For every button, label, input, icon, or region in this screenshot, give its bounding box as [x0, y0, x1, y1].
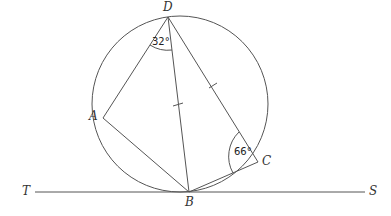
point-label-t: T	[22, 184, 30, 198]
angle-label-c: 66°	[234, 146, 252, 157]
segment-dc	[168, 17, 258, 162]
diagram-svg	[0, 0, 391, 216]
segment-ab	[103, 118, 189, 192]
segment-bc	[189, 162, 258, 192]
point-label-d: D	[163, 0, 173, 14]
angle-label-d: 32°	[152, 36, 170, 47]
point-label-s: S	[369, 184, 377, 198]
point-label-a: A	[89, 109, 98, 123]
segment-da	[103, 17, 168, 118]
point-label-b: B	[185, 195, 194, 209]
geometry-diagram: D A B C T S 32° 66°	[0, 0, 391, 216]
point-label-c: C	[262, 154, 271, 168]
